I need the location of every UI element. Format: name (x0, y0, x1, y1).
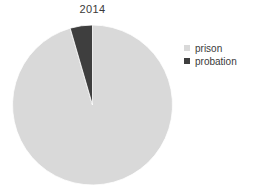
legend-label-probation: probation (195, 56, 237, 67)
chart-legend: prison probation (184, 42, 252, 68)
legend-label-prison: prison (195, 43, 222, 54)
legend-swatch-probation (184, 58, 190, 64)
pie-chart-figure: 2014 prison probation (0, 0, 254, 195)
pie-chart-canvas (0, 0, 254, 195)
legend-item-prison[interactable]: prison (184, 42, 252, 54)
legend-item-probation[interactable]: probation (184, 55, 252, 67)
legend-swatch-prison (184, 45, 190, 51)
